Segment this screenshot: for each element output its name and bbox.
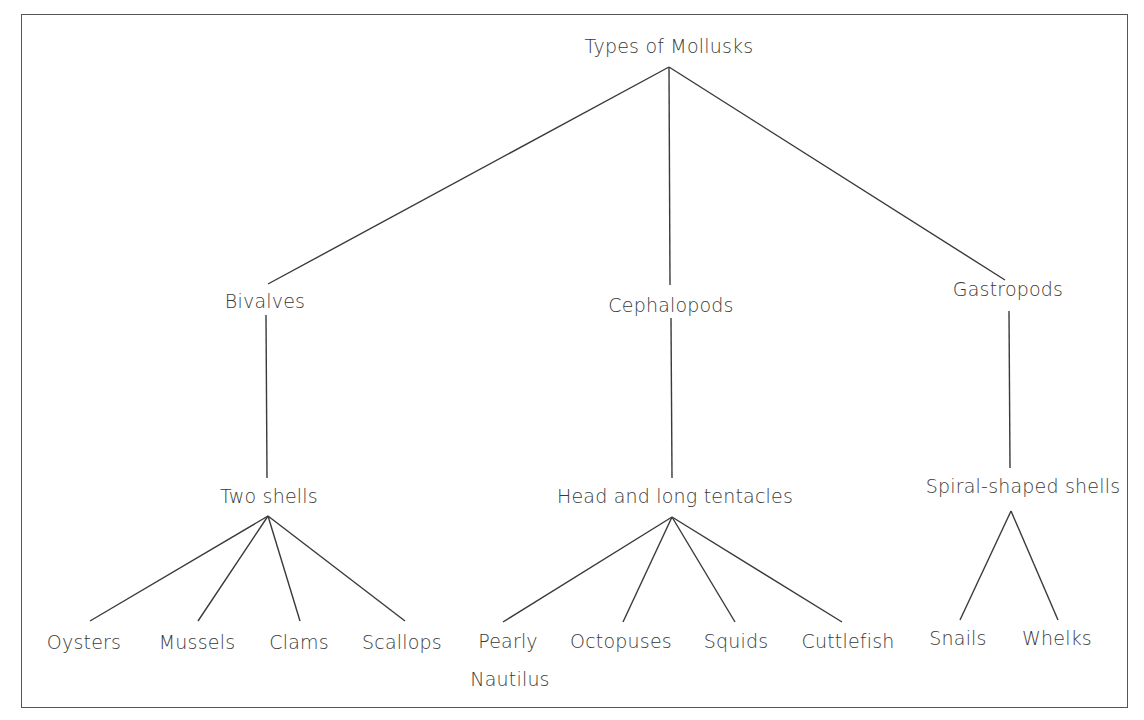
node-gastropods-trait: Spiral-shaped shells	[926, 474, 1121, 498]
edge-bivalves-trait	[266, 315, 267, 478]
edge-spiral-snails	[960, 511, 1011, 620]
node-gastropods: Gastropods	[953, 277, 1063, 301]
node-root: Types of Mollusks	[585, 34, 754, 58]
leaf-cuttlefish: Cuttlefish	[801, 629, 894, 653]
node-bivalves: Bivalves	[225, 289, 305, 313]
edge-root-bivalves	[268, 67, 669, 284]
node-cephalopods: Cephalopods	[608, 293, 733, 317]
edge-twoshells-clams	[268, 516, 300, 621]
edge-twoshells-mussels	[198, 516, 268, 621]
leaf-octopuses: Octopuses	[570, 629, 672, 653]
leaf-squids: Squids	[704, 629, 769, 653]
edge-gastropods-trait	[1009, 311, 1010, 468]
edge-twoshells-oysters	[90, 516, 268, 621]
edge-tentacles-squids	[672, 517, 735, 622]
leaf-whelks: Whelks	[1022, 626, 1092, 650]
leaf-clams: Clams	[269, 630, 329, 654]
connector-lines	[0, 0, 1144, 720]
edge-cephalopods-trait	[671, 318, 672, 478]
edge-spiral-whelks	[1011, 511, 1058, 620]
edge-root-gastropods	[669, 67, 1005, 280]
node-bivalves-trait: Two shells	[220, 484, 318, 508]
leaf-snails: Snails	[929, 626, 986, 650]
leaf-mussels: Mussels	[159, 630, 236, 654]
edge-root-cephalopods	[669, 67, 670, 285]
leaf-pearly-nautilus-line2: Nautilus	[470, 667, 549, 691]
edge-tentacles-cuttlefish	[672, 517, 842, 622]
diagram-canvas: Types of Mollusks Bivalves Cephalopods G…	[0, 0, 1144, 720]
leaf-pearly-nautilus-line1: Pearly	[478, 629, 538, 653]
leaf-oysters: Oysters	[47, 630, 121, 654]
edge-tentacles-pearly-nautilus	[503, 517, 672, 622]
edge-twoshells-scallops	[268, 516, 405, 621]
node-cephalopods-trait: Head and long tentacles	[557, 484, 793, 508]
leaf-scallops: Scallops	[362, 630, 442, 654]
